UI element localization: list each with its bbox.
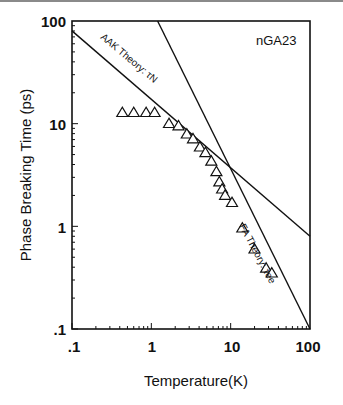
x-axis-title: Temperature(K) [144,372,248,389]
y-tick-0.1: .1 [53,321,66,338]
aak-theory-label: AAK Theory: τN [99,31,160,85]
x-tick-100: 100 [295,338,320,355]
fa-theory-line [158,21,310,329]
data-point-triangle [173,121,184,130]
data-point-triangle [117,107,128,116]
plot-frame [72,21,310,329]
x-tick-1: 1 [148,338,156,355]
data-point-triangle [128,107,139,116]
y-tick-10: 10 [49,116,66,133]
x-tick-0.1: .1 [68,338,81,355]
y-axis-title: Phase Breaking Time (ps) [17,89,34,262]
data-point-triangle [149,107,160,116]
x-tick-10: 10 [224,338,241,355]
phase-breaking-time-chart: nGA23 AAK Theory: τN FA Theory: τee 100 … [0,0,343,405]
aak-theory-line [72,31,310,236]
y-tick-1: 1 [58,219,66,236]
data-point-triangle [164,118,175,127]
sample-label: nGA23 [256,33,296,48]
data-point-triangle [211,166,222,175]
y-tick-100: 100 [41,13,66,30]
